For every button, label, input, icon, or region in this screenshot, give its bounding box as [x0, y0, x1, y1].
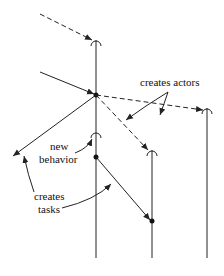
new-behavior-pointer: [75, 139, 92, 153]
lifeline-actor-3: [202, 108, 212, 258]
creation-arrow-actor-3: [96, 95, 203, 110]
creates-tasks-pointer-1: [24, 156, 34, 192]
creates-tasks-label-line1: creates: [34, 190, 65, 202]
creates-tasks-pointer-2: [62, 184, 111, 208]
task-receive-dot-icon: [150, 219, 155, 224]
task-message-arrow: [96, 157, 150, 220]
creation-arrow-actor-2: [96, 95, 148, 150]
creation-arrow-main: [40, 14, 92, 40]
creates-actors-label: creates actors: [140, 76, 200, 88]
incoming-message-arrow: [40, 72, 94, 94]
creates-tasks-label-line2: tasks: [38, 203, 60, 215]
creates-actors-pointer-1: [126, 92, 168, 120]
creates-actors-pointer-2: [160, 92, 168, 115]
lifeline-main: [91, 40, 101, 258]
new-behavior-label-line2: behavior: [39, 153, 78, 165]
actor-diagram: creates actors new behavior creates task…: [0, 0, 224, 276]
new-behavior-label-line1: new: [50, 140, 68, 152]
lifeline-actor-2: [147, 150, 157, 258]
